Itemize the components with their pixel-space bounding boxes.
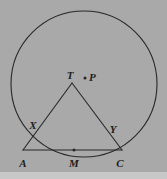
figure-canvas: TPXYAMC <box>0 0 167 179</box>
point-dot-m <box>73 149 76 152</box>
bottom-scan-strip <box>0 172 167 179</box>
geometry-figure: TPXYAMC <box>0 0 167 179</box>
label-point-c: C <box>116 157 124 169</box>
label-point-x: X <box>28 119 37 131</box>
point-dot-p <box>84 77 87 80</box>
label-point-p: P <box>89 71 96 83</box>
label-point-m: M <box>68 157 80 169</box>
label-point-a: A <box>18 157 26 169</box>
figure-background <box>0 0 167 179</box>
